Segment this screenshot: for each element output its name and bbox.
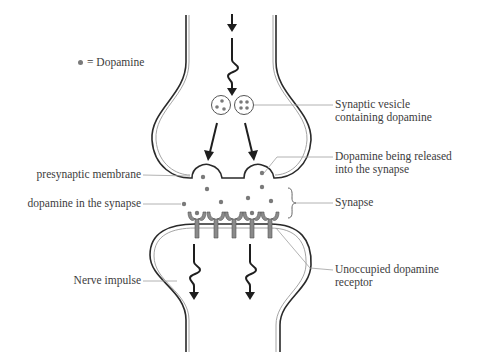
- receptor: [207, 212, 225, 238]
- legend: = Dopamine: [78, 56, 144, 69]
- dopamine-dot: [219, 200, 223, 204]
- vesicle-right: [235, 96, 254, 115]
- presynaptic-membrane-right-inner: [273, 15, 307, 175]
- presynaptic-membrane-left-outer: [152, 15, 190, 178]
- leader-presynaptic: [143, 175, 190, 176]
- leader-lines: [143, 105, 333, 281]
- postsynaptic-membrane-top-outer: [150, 224, 311, 352]
- dopamine-dot: [205, 187, 209, 191]
- leader-released: [264, 157, 333, 173]
- incoming-impulse: [227, 14, 238, 96]
- postsynaptic-membrane-top-inner: [154, 228, 306, 352]
- postsynaptic-neuron: [150, 224, 311, 352]
- dopamine-dot: [269, 199, 273, 203]
- dopamine-dot: [246, 196, 250, 200]
- dopamine-dot: [260, 185, 264, 189]
- dopamine-legend-dot: [78, 60, 83, 65]
- dopamine-molecules: [182, 171, 273, 206]
- label-presynaptic-membrane: presynaptic membrane: [37, 168, 141, 181]
- label-nerve-impulse: Nerve impulse: [74, 274, 141, 287]
- vesicle-left: [212, 96, 231, 115]
- outgoing-impulses: [189, 244, 256, 300]
- label-unoccupied-receptor: Unoccupied dopamine receptor: [335, 263, 439, 289]
- label-synapse: Synapse: [335, 196, 373, 209]
- label-dopamine-released: Dopamine being released into the synapse: [335, 150, 452, 176]
- dopamine-dot: [260, 171, 264, 175]
- receptor: [225, 212, 243, 238]
- dopamine-dot: [182, 202, 186, 206]
- dopamine-dot: [201, 175, 205, 179]
- synaptic-vesicles: [212, 96, 254, 115]
- presynaptic-membrane-right-outer: [275, 15, 311, 178]
- synapse-brace: [288, 188, 296, 218]
- label-dopamine-in-synapse: dopamine in the synapse: [28, 197, 141, 210]
- vesicle-release-arrows: [204, 123, 258, 161]
- label-synaptic-vesicle: Synaptic vesicle containing dopamine: [335, 98, 432, 124]
- legend-label: = Dopamine: [87, 56, 144, 68]
